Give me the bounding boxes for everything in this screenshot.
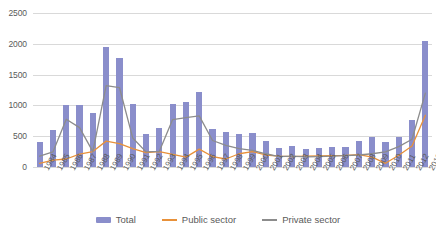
chart-legend: TotalPublic sectorPrivate sector: [0, 210, 436, 230]
line-private-sector: [40, 86, 426, 157]
x-axis-tick-label: 1986: [69, 168, 76, 172]
x-axis-tick-label: 2006: [335, 168, 342, 172]
x-axis-tick-label: 2002: [282, 168, 289, 172]
x-axis-tick-label: 1997: [216, 168, 223, 172]
x-axis-tick-label: 1999: [242, 168, 249, 172]
x-axis-tick-label: 2003: [295, 168, 302, 172]
lines-layer: [33, 13, 432, 167]
x-axis-tick-label: 1984: [43, 168, 50, 172]
x-axis-tick-label: 1996: [202, 168, 209, 172]
x-axis: 1984198519861987198819891990199119921993…: [33, 168, 432, 208]
x-axis-tick-label: 1987: [83, 168, 90, 172]
legend-item-total[interactable]: Total: [96, 215, 136, 225]
chart-container: 05001000150020002500 1984198519861987198…: [0, 0, 436, 236]
x-axis-tick-label: 2012: [415, 168, 422, 172]
x-axis-tick-label: 2007: [349, 168, 356, 172]
x-axis-tick-label: 1985: [56, 168, 63, 172]
plot-area: [33, 13, 432, 167]
y-axis-tick-label: 1000: [8, 101, 27, 110]
y-axis: 05001000150020002500: [0, 0, 30, 170]
x-axis-tick-label: 1992: [149, 168, 156, 172]
legend-item-public-sector[interactable]: Public sector: [162, 215, 236, 225]
legend-swatch-icon: [262, 219, 277, 221]
x-axis-tick-label: 1991: [136, 168, 143, 172]
x-axis-tick-label: 1988: [96, 168, 103, 172]
y-axis-tick-label: 1500: [8, 70, 27, 79]
x-axis-tick-label: 2004: [309, 168, 316, 172]
y-axis-tick-label: 500: [13, 132, 27, 141]
x-axis-tick-label: 2001: [269, 168, 276, 172]
x-axis-tick-label: 1994: [176, 168, 183, 172]
x-axis-tick-label: 2009: [375, 168, 382, 172]
x-axis-tick-label: 2005: [322, 168, 329, 172]
y-axis-tick-label: 2000: [8, 40, 27, 49]
legend-swatch-icon: [96, 217, 111, 223]
x-axis-tick-label: 1998: [229, 168, 236, 172]
y-axis-tick-label: 0: [22, 163, 27, 172]
x-axis-tick-label: 2010: [388, 168, 395, 172]
x-axis-tick-label: 1989: [109, 168, 116, 172]
x-axis-tick-label: 1990: [122, 168, 129, 172]
x-axis-tick-label: 2013: [428, 168, 435, 172]
x-axis-tick-label: 2011: [402, 168, 409, 172]
y-axis-tick-label: 2500: [8, 9, 27, 18]
legend-label: Private sector: [282, 215, 340, 225]
x-axis-tick-label: 1993: [162, 168, 169, 172]
legend-item-private-sector[interactable]: Private sector: [262, 215, 340, 225]
legend-swatch-icon: [162, 219, 177, 221]
chart-plot-wrapper: 05001000150020002500 1984198519861987198…: [0, 0, 436, 236]
x-axis-tick-label: 1995: [189, 168, 196, 172]
x-axis-tick-label: 2008: [362, 168, 369, 172]
legend-label: Total: [116, 215, 136, 225]
x-axis-tick-label: 2000: [255, 168, 262, 172]
legend-label: Public sector: [182, 215, 236, 225]
